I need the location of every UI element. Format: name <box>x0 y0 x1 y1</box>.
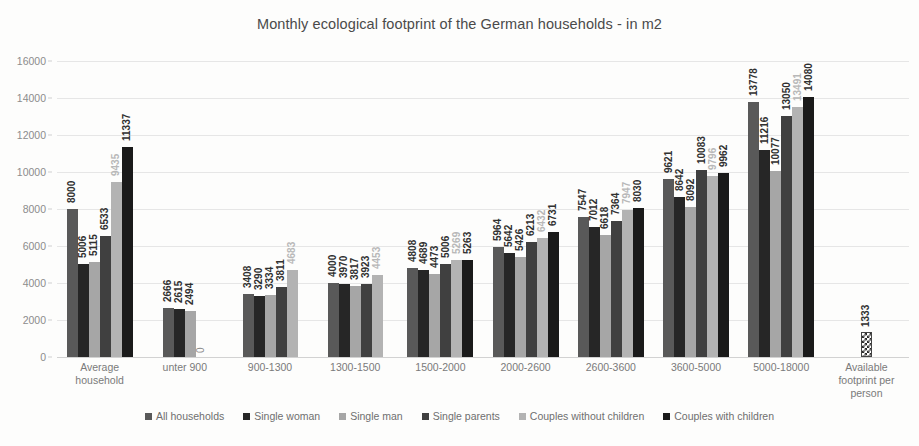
legend-swatch-icon <box>145 413 152 420</box>
bar[interactable]: 3334 <box>265 295 276 357</box>
bar[interactable]: 5642 <box>504 253 515 357</box>
bar[interactable]: 11216 <box>759 150 770 357</box>
bar-value-label: 3290 <box>254 268 264 290</box>
y-axis-tick-label: 0 <box>40 351 46 363</box>
bar-slot: 8642 <box>674 61 685 357</box>
bar[interactable]: 13050 <box>781 116 792 357</box>
bar[interactable]: 6618 <box>600 235 611 357</box>
bar[interactable]: 8000 <box>67 209 78 357</box>
legend-item[interactable]: Single woman <box>243 410 320 422</box>
bar[interactable]: 5006 <box>440 264 451 357</box>
bar[interactable]: 2615 <box>174 309 185 357</box>
bar-value-label: 4689 <box>418 242 428 264</box>
bar[interactable]: 11337 <box>122 147 133 357</box>
bar-slot: 5006 <box>78 61 89 357</box>
legend-item[interactable]: All households <box>145 410 224 422</box>
bar-value-label: 5006 <box>440 236 450 258</box>
bar-slot: 1333 <box>861 61 872 357</box>
bar-slot: 7947 <box>622 61 633 357</box>
bar[interactable]: 9796 <box>707 176 718 357</box>
bar-value-label: 3970 <box>339 255 349 277</box>
bar[interactable]: 4689 <box>418 270 429 357</box>
bar-slot: 7364 <box>611 61 622 357</box>
bar[interactable]: 5269 <box>451 260 462 357</box>
bar-value-label: 4808 <box>407 240 417 262</box>
bar[interactable]: 7547 <box>578 217 589 357</box>
bar-group: 9621864280921008397969962 <box>653 61 738 357</box>
bar[interactable]: 7012 <box>589 227 600 357</box>
bar[interactable]: 5115 <box>89 262 100 357</box>
bar[interactable]: 5006 <box>78 264 89 357</box>
bar[interactable]: 3408 <box>243 294 254 357</box>
bar[interactable]: 14080 <box>803 97 814 357</box>
bar-value-label: 3408 <box>243 266 253 288</box>
bar-slot: 9435 <box>111 61 122 357</box>
legend-item[interactable]: Single parents <box>422 410 500 422</box>
bar-group: 596456425426621364326731 <box>483 61 568 357</box>
bar[interactable]: 4683 <box>287 270 298 357</box>
x-axis-category-label: 5000-18000 <box>739 361 824 407</box>
legend-label: Couples without children <box>530 410 644 422</box>
bar-slot: 2666 <box>163 61 174 357</box>
bar-group: 1333 <box>824 61 909 357</box>
bar-slot: 5642 <box>504 61 515 357</box>
bar[interactable]: 5426 <box>515 257 526 357</box>
bar[interactable]: 3817 <box>350 286 361 357</box>
x-axis-category-label: 2600-3600 <box>568 361 653 407</box>
bar[interactable]: 6213 <box>526 242 537 357</box>
bar[interactable]: 9962 <box>718 173 729 357</box>
bar[interactable]: 7364 <box>611 221 622 357</box>
bar[interactable]: 5964 <box>493 247 504 357</box>
bar[interactable]: 7947 <box>622 210 633 357</box>
bar[interactable]: 5263 <box>462 260 473 357</box>
bar-value-label: 14080 <box>803 63 813 91</box>
bar[interactable]: 4453 <box>372 275 383 357</box>
bar[interactable]: 3290 <box>254 296 265 357</box>
bar-slot: 4683 <box>287 61 298 357</box>
legend-swatch-icon <box>243 413 250 420</box>
bar-value-label: 5263 <box>462 231 472 253</box>
legend-item[interactable]: Couples with children <box>663 410 774 422</box>
bar-value-label: 13778 <box>748 68 758 96</box>
bar[interactable]: 8092 <box>685 207 696 357</box>
bar[interactable]: 13491 <box>792 107 803 357</box>
bar[interactable]: 4473 <box>429 274 440 357</box>
bar-available-footprint[interactable]: 1333 <box>861 332 872 357</box>
legend-label: Couples with children <box>674 410 774 422</box>
legend-item[interactable]: Single man <box>339 410 403 422</box>
bar[interactable]: 6432 <box>537 238 548 357</box>
bar-value-label: 2615 <box>174 280 184 302</box>
bar-slot: 4473 <box>429 61 440 357</box>
bar[interactable]: 10083 <box>696 170 707 357</box>
y-axis-tick-mark <box>48 246 52 247</box>
bar-value-label: 4683 <box>287 242 297 264</box>
bar-slot: 5006 <box>440 61 451 357</box>
bar-value-label: 6533 <box>100 208 110 230</box>
x-axis-category-label: 900-1300 <box>227 361 312 407</box>
bar[interactable]: 3970 <box>339 284 350 357</box>
bar-slot: 9796 <box>707 61 718 357</box>
bar[interactable]: 6731 <box>548 232 559 357</box>
bar-value-label: 7012 <box>589 199 599 221</box>
bar-slot: 5426 <box>515 61 526 357</box>
bar[interactable]: 8642 <box>674 197 685 357</box>
bar[interactable]: 9621 <box>663 179 674 357</box>
bar-value-label: 7947 <box>622 182 632 204</box>
bar[interactable]: 8030 <box>633 208 644 357</box>
bar[interactable]: 6533 <box>100 236 111 357</box>
bar[interactable]: 3811 <box>276 287 287 358</box>
bar-slot: 3334 <box>265 61 276 357</box>
legend-item[interactable]: Couples without children <box>519 410 644 422</box>
bar-slot: 4453 <box>372 61 383 357</box>
legend-label: Single woman <box>254 410 320 422</box>
bar[interactable]: 10077 <box>770 171 781 357</box>
bar[interactable]: 9435 <box>111 182 122 357</box>
bar[interactable]: 3923 <box>361 284 372 357</box>
bar[interactable]: 2666 <box>163 308 174 357</box>
bar-slot: 2615 <box>174 61 185 357</box>
bar[interactable]: 4808 <box>407 268 418 357</box>
bar[interactable]: 4000 <box>328 283 339 357</box>
legend-label: All households <box>156 410 224 422</box>
bar-groups: 8000500651156533943511337266626152494034… <box>57 61 909 357</box>
y-axis-tick-mark <box>48 283 52 284</box>
